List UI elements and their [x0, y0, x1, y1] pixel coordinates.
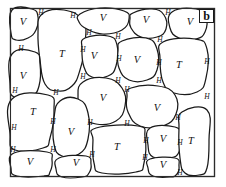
- boundary-marker-h: H: [49, 145, 56, 154]
- grain-outline: [159, 38, 209, 94]
- panel-label-box: b: [199, 9, 214, 23]
- boundary-marker-h: H: [203, 92, 210, 101]
- figure-panel: VTVVVVVTVVVTVTVTVVV HHHHHHHHHHHHHHHHHHHH…: [0, 0, 226, 187]
- grain-outline: [81, 35, 118, 78]
- boundary-marker-h: H: [69, 11, 76, 20]
- boundary-marker-h: H: [176, 168, 183, 177]
- grain-texture-drawing: VTVVVVVTVVVTVTVTVVV HHHHHHHHHHHHHHHHHHHH…: [0, 0, 226, 187]
- boundary-marker-h: H: [52, 88, 59, 97]
- boundary-marker-h: H: [156, 35, 163, 44]
- boundary-marker-h: H: [11, 86, 18, 95]
- grain-outline-layer: [7, 7, 210, 178]
- boundary-marker-h: H: [114, 32, 121, 41]
- boundary-marker-h: H: [174, 113, 181, 122]
- grain-outline: [126, 85, 178, 128]
- boundary-marker-h: H: [141, 153, 148, 162]
- boundary-marker-h: H: [142, 136, 149, 145]
- boundary-marker-h: H: [88, 150, 95, 159]
- boundary-marker-h: H: [85, 28, 92, 37]
- boundary-marker-h: H: [123, 119, 130, 128]
- grain-outline: [178, 107, 210, 176]
- boundary-marker-h: H: [79, 72, 86, 81]
- boundary-marker-h: H: [176, 138, 183, 147]
- boundary-marker-h: H: [115, 54, 122, 63]
- boundary-marker-h: H: [86, 118, 93, 127]
- boundary-marker-h: H: [49, 117, 56, 126]
- boundary-marker-h: H: [203, 57, 210, 66]
- boundary-marker-h: H: [10, 123, 17, 132]
- boundary-marker-h: H: [164, 8, 171, 17]
- boundary-marker-h: H: [17, 44, 24, 53]
- boundary-marker-h: H: [123, 85, 130, 94]
- panel-label-text: b: [203, 10, 210, 22]
- boundary-marker-h: H: [37, 8, 44, 17]
- boundary-marker-h: H: [155, 58, 162, 67]
- boundary-marker-h: H: [114, 76, 121, 85]
- boundary-marker-h: H: [155, 76, 162, 85]
- boundary-marker-h: H: [79, 45, 86, 54]
